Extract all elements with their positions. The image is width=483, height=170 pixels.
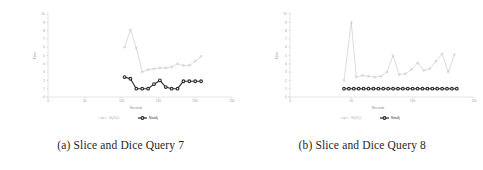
y-axis-tick-label: 9 — [43, 21, 45, 25]
series-mysql — [342, 21, 454, 81]
y-axis-tick-label: 7 — [285, 37, 287, 41]
y-axis-tick-label: 0 — [285, 95, 287, 99]
data-point-marker — [129, 77, 132, 80]
x-axis-tick-label: 100 — [410, 99, 415, 103]
y-axis-title: Time — [33, 52, 37, 60]
chart-a: 012345678910050100150200250RecordsTimeMy… — [0, 0, 242, 138]
data-point-marker — [362, 87, 365, 90]
series-neo4j — [123, 76, 202, 90]
y-axis-tick-label: 3 — [285, 70, 287, 74]
data-point-marker — [376, 87, 379, 90]
data-point-marker — [182, 80, 185, 83]
subfigure-a: 012345678910050100150200250RecordsTimeMy… — [0, 0, 242, 170]
data-point-marker — [406, 87, 409, 90]
data-point-marker — [164, 86, 167, 89]
data-point-marker — [147, 87, 150, 90]
data-point-marker — [135, 87, 138, 90]
data-point-marker — [445, 87, 448, 90]
y-axis-tick-label: 0 — [43, 95, 45, 99]
line-chart-a: 012345678910050100150200250RecordsTimeMy… — [0, 0, 242, 138]
series-line — [343, 22, 453, 80]
data-point-marker — [170, 87, 173, 90]
legend-label: MySQL — [109, 116, 120, 120]
series-mysql — [124, 29, 203, 73]
legend-label: Neo4j — [391, 116, 400, 120]
x-axis-tick-label: 0 — [289, 99, 291, 103]
legend-item-mysql[interactable]: MySQL — [98, 116, 120, 120]
legend-item-neo4j[interactable]: Neo4j — [380, 116, 400, 120]
y-axis-tick-label: 3 — [43, 70, 45, 74]
y-axis-tick-label: 1 — [285, 87, 287, 91]
data-point-marker — [386, 87, 389, 90]
data-point-marker — [430, 87, 433, 90]
data-point-marker — [440, 87, 443, 90]
data-point-marker — [416, 87, 419, 90]
y-axis-tick-label: 5 — [285, 54, 287, 58]
y-axis-tick-label: 8 — [43, 29, 45, 33]
series-line — [125, 30, 202, 72]
data-point-marker — [200, 80, 203, 83]
y-axis-tick-label: 1 — [43, 87, 45, 91]
data-point-marker — [372, 87, 375, 90]
x-axis-tick-label: 50 — [349, 99, 353, 103]
y-axis-tick-label: 2 — [43, 79, 45, 83]
legend-swatch-marker — [141, 117, 144, 120]
y-axis-tick-label: 2 — [285, 79, 287, 83]
figure-row: 012345678910050100150200250RecordsTimeMy… — [0, 0, 483, 170]
legend-item-neo4j[interactable]: Neo4j — [138, 116, 158, 120]
data-point-marker — [391, 87, 394, 90]
x-axis-tick-label: 50 — [83, 99, 87, 103]
y-axis-tick-label: 10 — [41, 12, 45, 16]
legend-label: MySQL — [351, 116, 362, 120]
data-point-marker — [426, 87, 429, 90]
data-point-marker — [401, 87, 404, 90]
y-axis-tick-label: 6 — [285, 45, 287, 49]
line-chart-b: 012345678910050100150RecordsTimeMySQLNeo… — [242, 0, 483, 138]
y-axis-title: Time — [275, 52, 279, 60]
x-axis-tick-label: 250 — [229, 99, 234, 103]
x-axis-title: Records — [371, 106, 384, 110]
data-point-marker — [396, 87, 399, 90]
data-point-marker — [381, 87, 384, 90]
legend-item-mysql[interactable]: MySQL — [340, 116, 362, 120]
x-axis-title: Records — [130, 106, 143, 110]
data-point-marker — [194, 80, 197, 83]
data-point-marker — [123, 76, 126, 79]
series-neo4j — [342, 87, 458, 90]
y-axis-tick-label: 4 — [43, 62, 45, 66]
data-point-marker — [188, 80, 191, 83]
x-axis-tick-label: 150 — [156, 99, 161, 103]
subfigure-b: 012345678910050100150RecordsTimeMySQLNeo… — [242, 0, 483, 170]
x-axis-tick-label: 150 — [471, 99, 476, 103]
data-point-marker — [357, 87, 360, 90]
y-axis-tick-label: 7 — [43, 37, 45, 41]
y-axis-tick-label: 5 — [43, 54, 45, 58]
data-point-marker — [352, 87, 355, 90]
data-point-marker — [159, 79, 162, 82]
data-point-marker — [435, 87, 438, 90]
y-axis-tick-label: 10 — [283, 12, 287, 16]
chart-b: 012345678910050100150RecordsTimeMySQLNeo… — [242, 0, 483, 138]
data-point-marker — [450, 87, 453, 90]
legend-swatch-marker — [383, 117, 386, 120]
data-point-marker — [141, 87, 144, 90]
data-point-marker — [347, 87, 350, 90]
x-axis-tick-label: 200 — [193, 99, 198, 103]
data-point-marker — [342, 87, 345, 90]
data-point-marker — [455, 87, 458, 90]
data-point-marker — [176, 87, 179, 90]
data-point-marker — [153, 83, 156, 86]
subfigure-a-caption: (a) Slice and Dice Query 7 — [57, 140, 184, 152]
x-axis-tick-label: 100 — [119, 99, 124, 103]
y-axis-tick-label: 6 — [43, 45, 45, 49]
legend-label: Neo4j — [149, 116, 158, 120]
x-axis-tick-label: 0 — [47, 99, 49, 103]
y-axis-tick-label: 8 — [285, 29, 287, 33]
data-point-marker — [411, 87, 414, 90]
subfigure-b-caption: (b) Slice and Dice Query 8 — [299, 140, 426, 152]
y-axis-tick-label: 4 — [285, 62, 287, 66]
data-point-marker — [367, 87, 370, 90]
data-point-marker — [421, 87, 424, 90]
y-axis-tick-label: 9 — [285, 21, 287, 25]
